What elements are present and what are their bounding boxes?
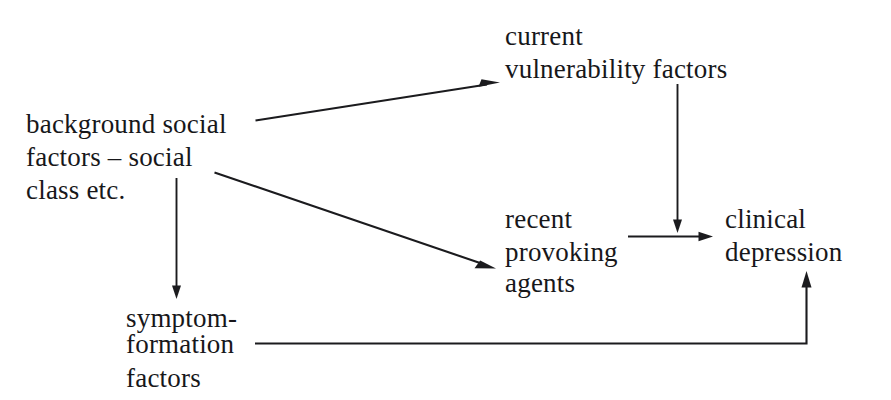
edge-layer	[172, 79, 812, 343]
current-vulnerability-factors-line-1: current	[505, 21, 583, 51]
background-social-factors-node: background social factors – social class…	[26, 109, 227, 205]
clinical-depression-node: clinical depression	[725, 204, 843, 267]
symptom-formation-factors-line-2: formation	[126, 329, 235, 359]
arrow-background-to-provoking	[215, 173, 497, 269]
arrow-provoking-to-depression-head	[699, 232, 714, 242]
clinical-depression-line-1: clinical	[725, 204, 806, 234]
clinical-depression-line-2: depression	[725, 237, 843, 267]
arrow-background-to-symptom-formation	[172, 178, 181, 299]
current-vulnerability-factors-line-2: vulnerability factors	[505, 54, 727, 84]
label-layer: background social factors – social class…	[26, 21, 843, 393]
arrow-background-to-vulnerability-head	[479, 79, 501, 87]
arrow-background-to-provoking-shaft	[215, 173, 484, 265]
arrow-vulnerability-to-depression	[673, 84, 682, 233]
arrow-background-to-vulnerability-shaft	[256, 85, 488, 121]
diagram-canvas: background social factors – social class…	[0, 0, 891, 400]
arrow-symptom-formation-to-depression-head	[802, 271, 812, 288]
recent-provoking-agents-line-2: provoking	[505, 237, 618, 267]
background-social-factors-line-2: factors – social	[26, 142, 193, 172]
diagram-root: background social factors – social class…	[0, 0, 891, 400]
arrow-provoking-to-depression	[628, 232, 713, 242]
current-vulnerability-factors-node: current vulnerability factors	[505, 21, 727, 84]
background-social-factors-line-1: background social	[26, 109, 227, 139]
symptom-formation-factors-node: symptom- formation factors	[126, 303, 237, 393]
recent-provoking-agents-line-3: agents	[505, 268, 575, 298]
background-social-factors-line-3: class etc.	[26, 175, 125, 205]
recent-provoking-agents-node: recent provoking agents	[505, 204, 618, 298]
arrow-background-to-vulnerability	[256, 79, 501, 120]
recent-provoking-agents-line-1: recent	[505, 204, 572, 234]
arrow-vulnerability-to-depression-head	[673, 220, 682, 234]
symptom-formation-factors-line-3: factors	[126, 363, 201, 393]
arrow-background-to-symptom-formation-head	[172, 286, 181, 300]
